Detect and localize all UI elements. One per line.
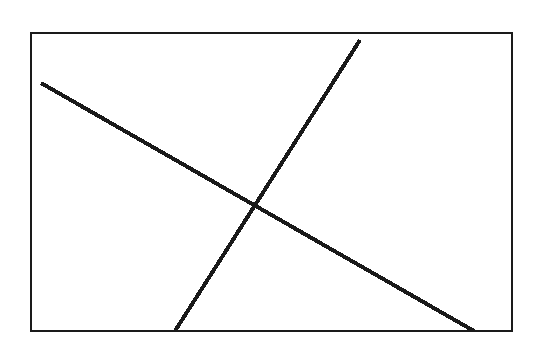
line-drawing-canvas [0,0,536,363]
figure-container [0,0,536,363]
